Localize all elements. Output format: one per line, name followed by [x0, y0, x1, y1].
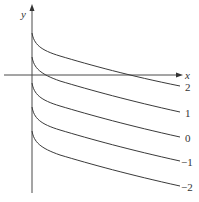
solution-curves-diagram: y x 2 1 0 −1 −2	[0, 0, 199, 202]
curve-minus-1: −1	[32, 107, 193, 168]
y-axis-arrow-icon	[30, 4, 35, 11]
x-axis-label: x	[184, 69, 190, 81]
curve-label: −2	[181, 181, 193, 193]
curve-minus-2: −2	[32, 131, 193, 193]
curve-2: 2	[32, 33, 191, 93]
curve-1: 1	[32, 57, 191, 119]
curve-label: −1	[181, 156, 193, 168]
curve-0: 0	[32, 83, 191, 144]
x-axis-arrow-icon	[176, 73, 183, 78]
curve-label: 1	[185, 107, 191, 119]
y-axis-label: y	[20, 8, 26, 20]
curve-label: 2	[185, 81, 191, 93]
curve-label: 0	[185, 132, 191, 144]
